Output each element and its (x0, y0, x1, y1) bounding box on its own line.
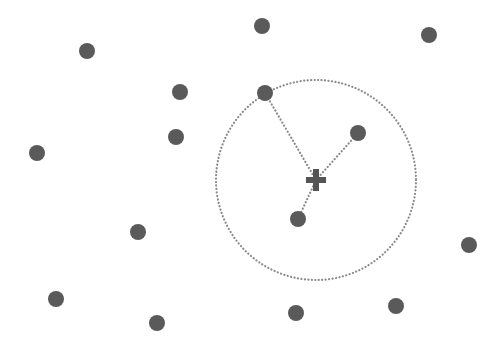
data-point (29, 145, 45, 161)
data-points-layer (29, 18, 477, 331)
knn-diagram (0, 0, 500, 348)
data-point (288, 305, 304, 321)
neighbor-point (257, 85, 273, 101)
data-point (254, 18, 270, 34)
data-point (79, 43, 95, 59)
neighbor-link (316, 133, 358, 180)
neighbor-point (290, 211, 306, 227)
data-point (388, 298, 404, 314)
neighbor-links-layer (265, 93, 358, 219)
data-point (48, 291, 64, 307)
data-point (168, 129, 184, 145)
data-point (461, 237, 477, 253)
neighbor-link (265, 93, 316, 180)
data-point (149, 315, 165, 331)
neighbor-point (350, 125, 366, 141)
data-point (130, 224, 146, 240)
data-point (172, 84, 188, 100)
data-point (421, 27, 437, 43)
